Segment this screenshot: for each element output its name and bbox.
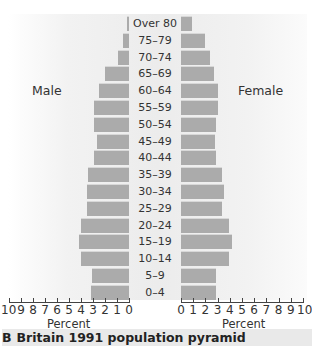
age-group-label: 10–14	[130, 251, 180, 266]
age-group-label: 50–54	[130, 117, 180, 132]
female-bar	[181, 167, 222, 182]
female-bar	[181, 33, 205, 48]
age-group-label: 40–44	[130, 150, 180, 165]
female-bar	[181, 83, 218, 98]
female-bar	[181, 251, 229, 266]
male-label: Male	[32, 83, 62, 98]
male-bar	[88, 167, 129, 182]
age-group-label: 60–64	[130, 83, 180, 98]
female-bar	[181, 285, 216, 300]
female-bar	[181, 184, 224, 199]
tick-label: 9	[284, 303, 298, 317]
female-bar	[181, 150, 216, 165]
female-bar	[181, 16, 192, 31]
male-bar	[81, 251, 129, 266]
male-bar	[79, 234, 129, 249]
male-bar	[127, 16, 129, 31]
age-group-label: 5–9	[130, 268, 180, 283]
age-group-label: 35–39	[130, 167, 180, 182]
male-bar	[94, 100, 129, 115]
age-group-label: 55–59	[130, 100, 180, 115]
male-bar	[97, 134, 129, 149]
male-bar	[81, 218, 129, 233]
tick-label: 10	[297, 303, 311, 317]
female-bar	[181, 134, 215, 149]
tick-label: 10	[1, 303, 15, 317]
female-bar	[181, 100, 218, 115]
age-group-label: 20–24	[130, 218, 180, 233]
male-bar	[94, 117, 129, 132]
male-bar	[118, 50, 129, 65]
male-bar	[123, 33, 129, 48]
female-bar	[181, 234, 232, 249]
age-group-label: 25–29	[130, 201, 180, 216]
male-bar	[91, 285, 129, 300]
age-group-label: 45–49	[130, 134, 180, 149]
female-label: Female	[238, 83, 283, 98]
female-bar	[181, 66, 214, 81]
caption-letter: B	[2, 330, 12, 345]
female-bar	[181, 201, 222, 216]
age-group-label: 0–4	[130, 285, 180, 300]
age-group-label: Over 80	[130, 16, 180, 31]
age-group-label: 70–74	[130, 50, 180, 65]
age-group-label: 30–34	[130, 184, 180, 199]
figure-caption: BBritain 1991 population pyramid	[2, 329, 312, 346]
male-bar	[87, 201, 129, 216]
male-bar	[94, 150, 129, 165]
male-bar	[92, 268, 129, 283]
female-bar	[181, 117, 216, 132]
age-group-label: 15–19	[130, 234, 180, 249]
female-bar	[181, 50, 210, 65]
male-bar	[99, 83, 129, 98]
male-bar	[87, 184, 129, 199]
female-bar	[181, 268, 216, 283]
female-bar	[181, 218, 229, 233]
age-group-label: 75–79	[130, 33, 180, 48]
age-group-label: 65–69	[130, 66, 180, 81]
tick-label: 0	[122, 303, 136, 317]
male-bar	[105, 66, 129, 81]
caption-text: Britain 1991 population pyramid	[17, 330, 246, 345]
